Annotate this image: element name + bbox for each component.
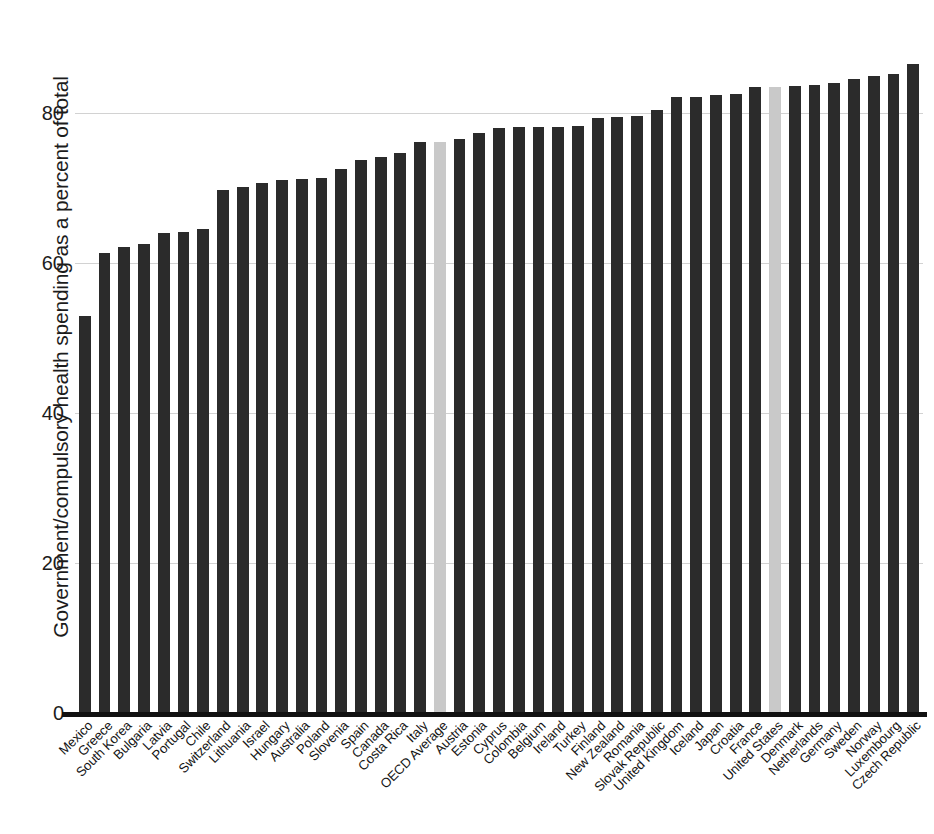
x-axis-tick-labels: MexicoGreeceSouth KoreaBulgariaLatviaPor… — [0, 718, 934, 834]
bar-japan[interactable] — [710, 95, 722, 713]
bar-slovak-republic[interactable] — [651, 110, 663, 713]
bar-spain[interactable] — [355, 160, 367, 713]
y-tick-label-40: 40 — [18, 402, 64, 425]
bar-costa-rica[interactable] — [394, 153, 406, 713]
bar-luxembourg[interactable] — [888, 74, 900, 713]
x-axis-line — [62, 712, 927, 717]
bar-greece[interactable] — [99, 253, 111, 714]
bar-poland[interactable] — [316, 178, 328, 713]
bar-ireland[interactable] — [552, 127, 564, 714]
bar-bulgaria[interactable] — [138, 244, 150, 714]
bar-sweden[interactable] — [848, 79, 860, 713]
bar-austria[interactable] — [454, 139, 466, 714]
y-axis-tick-labels: 020406080 — [16, 10, 64, 713]
bar-netherlands[interactable] — [809, 85, 821, 713]
bar-chile[interactable] — [197, 229, 209, 714]
bar-israel[interactable] — [256, 183, 268, 713]
bar-croatia[interactable] — [730, 94, 742, 713]
bar-iceland[interactable] — [690, 97, 702, 714]
bar-cyprus[interactable] — [493, 128, 505, 713]
bar-colombia[interactable] — [513, 127, 525, 713]
bar-lithuania[interactable] — [237, 187, 249, 714]
bar-italy[interactable] — [414, 142, 426, 714]
bar-romania[interactable] — [631, 116, 643, 713]
bar-mexico[interactable] — [79, 316, 91, 713]
bar-slovenia[interactable] — [335, 169, 347, 714]
y-tick-label-20: 20 — [18, 552, 64, 575]
bar-denmark[interactable] — [789, 86, 801, 713]
y-tick-label-80: 80 — [18, 102, 64, 125]
bar-estonia[interactable] — [473, 133, 485, 713]
bar-france[interactable] — [749, 87, 761, 713]
bar-turkey[interactable] — [572, 126, 584, 713]
bar-united-states[interactable] — [769, 87, 781, 713]
bar-finland[interactable] — [592, 118, 604, 713]
bar-norway[interactable] — [868, 76, 880, 714]
cut-off-caption — [10, 824, 924, 834]
bar-latvia[interactable] — [158, 233, 170, 713]
bar-australia[interactable] — [296, 179, 308, 713]
bar-new-zealand[interactable] — [611, 117, 623, 713]
bar-czech-republic[interactable] — [907, 64, 919, 714]
y-tick-label-60: 60 — [18, 252, 64, 275]
bar-hungary[interactable] — [276, 180, 288, 713]
bar-united-kingdom[interactable] — [671, 97, 683, 713]
bar-canada[interactable] — [375, 157, 387, 714]
bar-oecd-average[interactable] — [434, 142, 446, 714]
bar-series — [75, 10, 923, 713]
bar-switzerland[interactable] — [217, 190, 229, 713]
bar-belgium[interactable] — [533, 127, 545, 714]
bar-portugal[interactable] — [178, 232, 190, 713]
bar-germany[interactable] — [828, 83, 840, 713]
bar-south-korea[interactable] — [118, 247, 130, 714]
bar-chart: Government/compulsory health spending as… — [0, 0, 934, 834]
